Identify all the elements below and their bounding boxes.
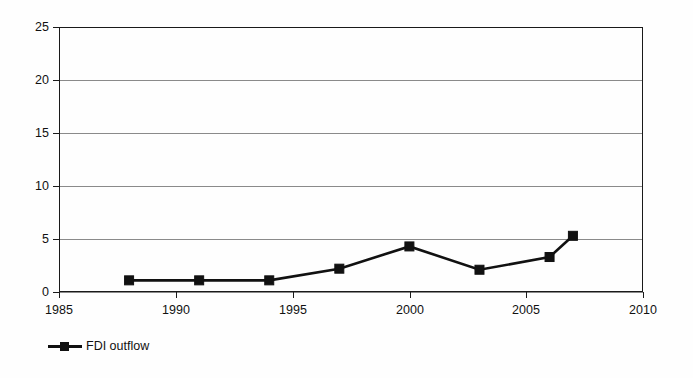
y-axis-label-5: 5 [5, 233, 49, 245]
y-tick-20 [53, 80, 59, 81]
y-tick-10 [53, 186, 59, 187]
x-axis-label-1995: 1995 [263, 303, 323, 317]
chart-container: 25 20 15 10 5 0 1985 1990 1995 2000 2005… [0, 0, 693, 378]
legend-label-fdi-outflow: FDI outflow [82, 339, 149, 353]
chart-legend: FDI outflow [48, 339, 149, 353]
x-tick-2010 [643, 292, 644, 298]
y-axis-label-25: 25 [5, 21, 49, 33]
y-axis-label-15: 15 [5, 127, 49, 139]
legend-key-icon [48, 339, 82, 353]
x-tick-1995 [293, 292, 294, 298]
x-axis-label-1985: 1985 [29, 303, 89, 317]
x-tick-1990 [176, 292, 177, 298]
x-axis-label-1990: 1990 [146, 303, 206, 317]
x-tick-2000 [410, 292, 411, 298]
legend-square-marker-icon [60, 342, 69, 351]
y-tick-25 [53, 27, 59, 28]
x-tick-1985 [59, 292, 60, 298]
y-axis-label-20: 20 [5, 74, 49, 86]
y-tick-15 [53, 133, 59, 134]
plot-area [59, 27, 643, 292]
y-axis-label-10: 10 [5, 180, 49, 192]
x-axis-label-2005: 2005 [496, 303, 556, 317]
x-tick-2005 [526, 292, 527, 298]
x-axis-label-2010: 2010 [613, 303, 673, 317]
x-axis-label-2000: 2000 [380, 303, 440, 317]
y-axis-label-0: 0 [5, 286, 49, 298]
y-tick-5 [53, 239, 59, 240]
gridline-0 [59, 292, 643, 293]
